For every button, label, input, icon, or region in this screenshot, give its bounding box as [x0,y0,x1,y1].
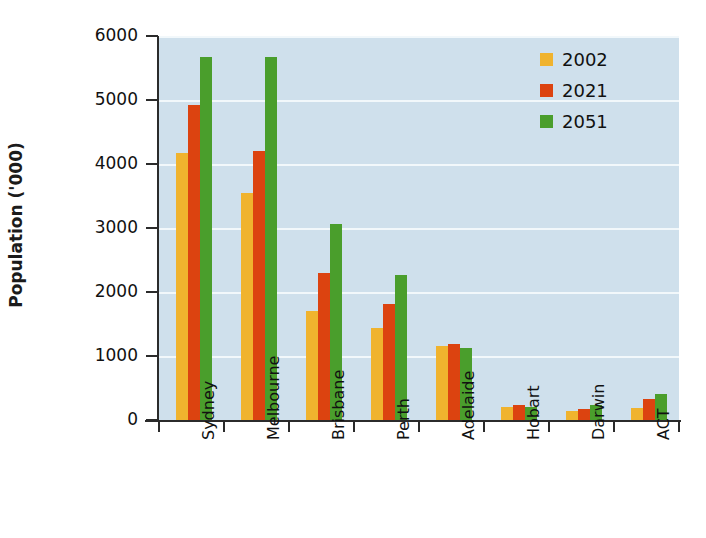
gridline [159,36,679,38]
y-axis-tick [146,35,158,37]
x-axis-category-label: Melbourne [264,356,283,440]
bar-chart-figure: Population ('000) 0100020003000400050006… [0,0,706,538]
y-axis-tick [146,163,158,165]
x-axis-category-label: Sydney [199,381,218,440]
x-axis-tick [223,421,225,432]
x-axis-tick [678,421,680,432]
bar [306,311,318,420]
bar [176,153,188,420]
gridline [159,228,679,230]
x-axis-category-label: Darwin [589,384,608,440]
y-axis-tick-label: 3000 [38,217,138,237]
legend-label: 2021 [562,80,608,101]
x-axis-tick [353,421,355,432]
x-axis-category-label: Perth [394,398,413,440]
x-axis-tick [613,421,615,432]
y-axis-tick [146,227,158,229]
y-axis-line [157,36,159,422]
x-axis-category-label: Hobart [524,385,543,440]
gridline [159,292,679,294]
bar [318,273,330,420]
x-axis-tick [158,421,160,432]
x-axis-tick [548,421,550,432]
bar [436,346,448,420]
y-axis-title: Population ('000) [6,130,26,320]
legend-swatch-icon [540,84,553,97]
bar [566,411,578,420]
bar [448,344,460,420]
y-axis-tick [146,355,158,357]
x-axis-tick [483,421,485,432]
bar [188,105,200,420]
y-axis-tick-label: 1000 [38,345,138,365]
y-axis-tick [146,419,158,421]
bar [643,399,655,420]
gridline [159,356,679,358]
gridline [159,164,679,166]
legend-label: 2002 [562,49,608,70]
x-axis-tick [288,421,290,432]
chart-legend: 200220212051 [540,44,650,137]
y-axis-tick-label: 2000 [38,281,138,301]
y-axis-tick [146,99,158,101]
y-axis-tick-label: 4000 [38,153,138,173]
bar [383,304,395,420]
legend-item-2002: 2002 [540,44,650,75]
bar [253,151,265,420]
bar [371,328,383,420]
legend-item-2051: 2051 [540,106,650,137]
y-axis-tick-label: 5000 [38,89,138,109]
bar [200,57,212,420]
bar [241,193,253,420]
legend-label: 2051 [562,111,608,132]
legend-swatch-icon [540,53,553,66]
y-axis-tick-label: 0 [38,409,138,429]
bar [578,409,590,420]
x-axis-category-label: ACT [654,408,673,440]
bar [513,405,525,420]
y-axis-tick [146,291,158,293]
y-axis-tick-label: 6000 [38,25,138,45]
legend-item-2021: 2021 [540,75,650,106]
x-axis-category-label: Adelaide [459,371,478,440]
bar [501,407,513,420]
x-axis-category-label: Brisbane [329,370,348,440]
bar [631,408,643,420]
legend-swatch-icon [540,115,553,128]
x-axis-tick [418,421,420,432]
